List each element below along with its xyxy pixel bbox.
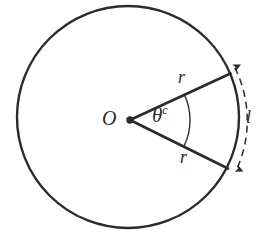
- radius-lower-label: r: [180, 148, 187, 166]
- theta-superscript-c: c: [162, 103, 167, 117]
- center-label: O: [102, 108, 116, 128]
- geometry-figure: O r r θc l: [0, 0, 270, 237]
- figure-canvas: [0, 0, 270, 237]
- arc-length-label: l: [246, 108, 251, 126]
- central-angle-arc: [184, 95, 190, 146]
- center-point-dot: [126, 116, 133, 123]
- theta-symbol: θ: [152, 103, 162, 127]
- radius-upper-label: r: [178, 68, 185, 86]
- central-angle-label: θc: [152, 105, 168, 126]
- radius-lower-line: [130, 120, 228, 169]
